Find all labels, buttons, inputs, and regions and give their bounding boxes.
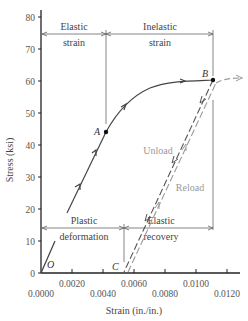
x-tick-label: 0.0120 [214, 289, 240, 299]
y-tick-label: 40 [26, 141, 36, 151]
y-tick-label: 70 [26, 45, 36, 55]
x-tick-labels: 0.0000 0.0020 0.0040 0.0060 0.0080 0.010… [28, 279, 240, 299]
y-tick-label: 50 [26, 109, 36, 119]
y-tick-label: 30 [26, 173, 36, 183]
x-tick-label: 0.0080 [152, 289, 178, 299]
y-tick-label: 80 [26, 13, 36, 23]
y-tick-label: 0 [30, 269, 35, 279]
point-o-label: O [47, 259, 54, 270]
x-tick-label: 0.0100 [183, 279, 209, 289]
point-c-label: C [112, 261, 119, 272]
point-a-label: A [93, 126, 101, 137]
x-tick-label: 0.0020 [59, 279, 85, 289]
elastic-recovery-label: recovery [144, 231, 179, 242]
unload-label: Unload [143, 145, 172, 156]
x-tick-label: 0.0000 [28, 289, 54, 299]
y-tick-label: 60 [26, 77, 36, 87]
inelastic-strain-label: strain [149, 37, 171, 48]
strain-dimension-lines [42, 30, 213, 230]
point-a-marker [104, 130, 108, 134]
unload-line [124, 80, 213, 272]
elastic-strain-label: Elastic [60, 21, 88, 32]
point-b-label: B [202, 68, 208, 79]
inelastic-strain-label: Inelastic [143, 21, 177, 32]
y-axis-title: Stress (ksi) [4, 138, 16, 183]
stress-strain-chart: 0 10 20 30 40 50 60 70 80 0.0000 0.0020 … [0, 0, 248, 321]
x-axis-title: Strain (in./in.) [106, 305, 162, 317]
plastic-deformation-label: Plastic [71, 215, 98, 226]
loading-curve [41, 79, 213, 273]
x-tick-label: 0.0040 [90, 289, 116, 299]
point-b-marker [211, 78, 215, 82]
reload-line [128, 75, 243, 272]
elastic-strain-label: strain [63, 37, 85, 48]
y-tick-label: 10 [26, 237, 36, 247]
reload-label: Reload [176, 182, 204, 193]
y-tick-labels: 0 10 20 30 40 50 60 70 80 [26, 13, 36, 279]
x-tick-label: 0.0060 [121, 279, 147, 289]
y-tick-label: 20 [26, 205, 36, 215]
plastic-deformation-label: deformation [60, 231, 109, 242]
deformation-dimension-lines [42, 224, 213, 262]
